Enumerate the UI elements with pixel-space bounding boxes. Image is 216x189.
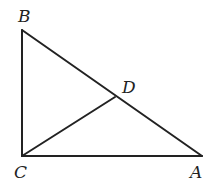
segment-cd — [22, 97, 115, 156]
label-d: D — [121, 77, 136, 97]
label-c: C — [14, 162, 27, 182]
segment-ab — [22, 30, 202, 156]
label-b: B — [17, 6, 31, 26]
label-a: A — [188, 162, 202, 182]
triangle-diagram: B D C A — [0, 0, 216, 189]
